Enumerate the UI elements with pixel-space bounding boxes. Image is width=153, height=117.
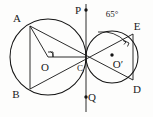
label-O-prime: O′ <box>113 58 123 70</box>
label-angle-65: 65° <box>106 9 119 19</box>
point-O-prime-dot <box>110 53 113 56</box>
label-B: B <box>12 88 19 100</box>
label-O: O <box>41 61 49 73</box>
point-P-dot <box>84 8 87 11</box>
label-A: A <box>13 12 21 24</box>
label-Q: Q <box>88 91 96 103</box>
label-E: E <box>134 20 141 32</box>
label-D: D <box>133 83 141 95</box>
small-circle <box>86 31 138 83</box>
label-C: C <box>77 63 83 73</box>
geometry-figure: A B C D E P Q O O′ 65° <box>0 0 153 117</box>
label-P: P <box>75 4 81 16</box>
